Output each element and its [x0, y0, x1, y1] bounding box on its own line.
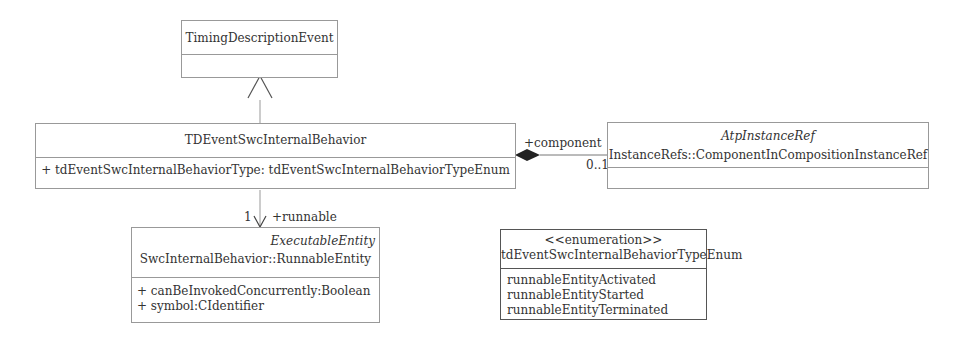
- class-td-event-swc-internal-behavior[interactable]: TDEventSwcInternalBehavior + tdEventSwcI…: [35, 123, 516, 189]
- enum-td-event-swc-internal-behavior-type[interactable]: <<enumeration>> tdEventSwcInternalBehavi…: [500, 229, 707, 320]
- composition-diamond-icon: [515, 149, 540, 161]
- class-name: TDEventSwcInternalBehavior: [36, 124, 515, 157]
- class-runnable-entity[interactable]: ExecutableEntity SwcInternalBehavior::Ru…: [131, 227, 380, 323]
- class-component-in-composition-instance-ref[interactable]: AtpInstanceRef InstanceRefs::ComponentIn…: [607, 122, 929, 189]
- attribute-td-event-type: + tdEventSwcInternalBehaviorType: tdEven…: [36, 157, 515, 178]
- attribute-symbol: + symbol:CIdentifier: [137, 299, 379, 314]
- class-timing-description-event[interactable]: TimingDescriptionEvent: [181, 20, 338, 78]
- attribute-can-be-invoked-concurrently: + canBeInvokedConcurrently:Boolean: [137, 284, 379, 299]
- attributes-compartment: [182, 54, 337, 76]
- association-multiplicity-label: 1: [244, 210, 252, 224]
- composition-role-label: +component: [524, 136, 602, 150]
- enum-literal: runnableEntityStarted: [507, 288, 706, 303]
- composition-multiplicity-label: 0..1: [586, 158, 609, 172]
- attributes-compartment: [608, 167, 928, 185]
- association-role-label: +runnable: [272, 210, 337, 224]
- enum-stereotype: <<enumeration>>: [501, 230, 706, 248]
- class-name: TimingDescriptionEvent: [182, 21, 337, 54]
- enum-literal: runnableEntityActivated: [507, 273, 706, 288]
- enum-literals-compartment: runnableEntityActivated runnableEntitySt…: [501, 268, 706, 318]
- attributes-compartment: + canBeInvokedConcurrently:Boolean + sym…: [132, 277, 379, 314]
- class-stereotype: AtpInstanceRef: [608, 123, 928, 144]
- class-name: SwcInternalBehavior::RunnableEntity: [132, 249, 379, 277]
- generalization-arrowhead-icon: [248, 76, 272, 98]
- class-name: InstanceRefs::ComponentInCompositionInst…: [608, 144, 928, 167]
- enum-name: tdEventSwcInternalBehaviorTypeEnum: [501, 248, 706, 268]
- class-stereotype: ExecutableEntity: [132, 228, 379, 249]
- enum-literal: runnableEntityTerminated: [507, 303, 706, 318]
